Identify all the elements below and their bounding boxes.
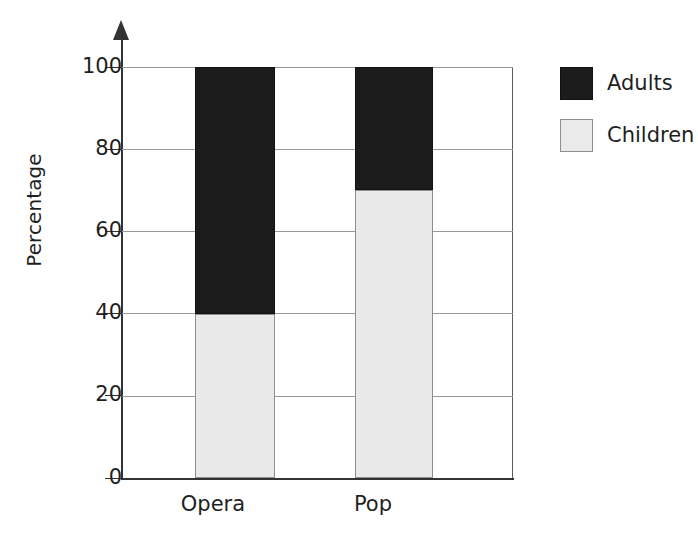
gridline-20	[122, 396, 513, 397]
legend-item-children[interactable]: Children	[560, 118, 698, 152]
gridline-40	[122, 313, 513, 314]
bar-segment-pop-adults[interactable]	[355, 67, 433, 190]
legend-swatch-children	[560, 119, 593, 152]
bar-segment-opera-adults[interactable]	[195, 67, 275, 314]
bar-opera[interactable]	[195, 67, 275, 478]
plot-right-border	[122, 67, 513, 478]
x-axis-line	[121, 478, 514, 480]
stacked-bar-chart: Percentage 100 80 60 40 20 0	[0, 0, 698, 535]
x-tick-label-pop: Pop	[315, 492, 431, 516]
gridline-80	[122, 149, 513, 150]
bar-segment-opera-children[interactable]	[195, 314, 275, 478]
legend-item-adults[interactable]: Adults	[560, 66, 698, 100]
y-axis-ticks: 100 80 60 40 20 0	[0, 0, 122, 535]
y-tick-label-20: 20	[24, 384, 122, 405]
plot-area	[122, 67, 513, 478]
gridline-100	[122, 67, 513, 68]
legend-label-adults: Adults	[607, 71, 673, 95]
bar-pop[interactable]	[355, 67, 433, 478]
x-tick-label-opera: Opera	[155, 492, 271, 516]
gridline-60	[122, 231, 513, 232]
y-tick-label-0: 0	[24, 467, 122, 488]
legend-swatch-adults	[560, 67, 593, 100]
y-tick-label-40: 40	[24, 302, 122, 323]
legend-label-children: Children	[607, 123, 694, 147]
bar-segment-pop-children[interactable]	[355, 190, 433, 478]
legend: Adults Children	[560, 66, 698, 170]
y-tick-label-60: 60	[24, 220, 122, 241]
y-tick-label-100: 100	[24, 56, 122, 77]
y-tick-label-80: 80	[24, 138, 122, 159]
